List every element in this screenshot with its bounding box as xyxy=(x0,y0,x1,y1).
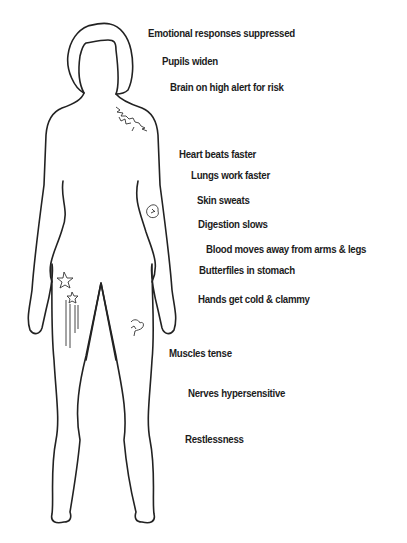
label-skin-sweats: Skin sweats xyxy=(197,194,250,207)
forearm-scribble-marking xyxy=(147,205,159,218)
thigh-scribble-marking xyxy=(131,320,143,336)
label-nerves-hypersensitive: Nerves hypersensitive xyxy=(188,387,285,400)
label-pupils-widen: Pupils widen xyxy=(162,55,218,68)
label-digestion-slows: Digestion slows xyxy=(198,218,268,231)
label-butterflies: Butterfiles in stomach xyxy=(199,264,295,277)
label-heart-beats: Heart beats faster xyxy=(179,148,256,161)
crotch-line xyxy=(86,283,116,360)
label-restlessness: Restlessness xyxy=(185,433,244,446)
label-lungs-work: Lungs work faster xyxy=(191,169,270,182)
face-outline xyxy=(79,40,118,94)
shoulder-scribble-marking xyxy=(116,107,147,131)
label-blood-moves: Blood moves away from arms & legs xyxy=(206,243,366,256)
label-brain-alert: Brain on high alert for risk xyxy=(170,81,284,94)
hip-stars-marking xyxy=(57,272,78,348)
label-emotional-responses: Emotional responses suppressed xyxy=(148,27,295,40)
label-muscles-tense: Muscles tense xyxy=(169,347,232,360)
label-hands-cold: Hands get cold & clammy xyxy=(198,293,310,306)
